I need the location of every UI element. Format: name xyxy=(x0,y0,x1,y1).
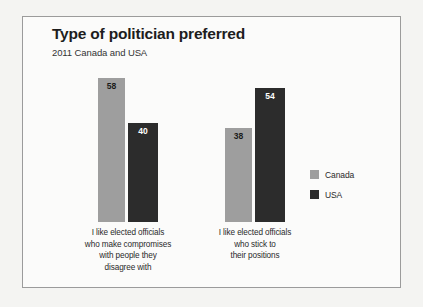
chart-legend: Canada USA xyxy=(310,167,354,207)
category-label-line: who make compromises xyxy=(68,239,188,251)
legend-label-canada: Canada xyxy=(325,170,354,180)
bar-value-canada-compromises: 58 xyxy=(98,81,125,91)
category-label-line: disagree with xyxy=(68,262,188,274)
category-label-line: their positions xyxy=(195,250,315,262)
legend-item-canada: Canada xyxy=(310,167,354,182)
chart-page: Type of politician preferred 2011 Canada… xyxy=(0,0,423,307)
plot-area: 58 40 38 54 I like elected officials who… xyxy=(0,0,423,307)
bar-usa-compromises xyxy=(128,123,158,222)
bar-canada-compromises xyxy=(98,78,125,222)
category-label-line: who stick to xyxy=(195,239,315,251)
bar-value-usa-compromises: 40 xyxy=(128,126,158,136)
bar-value-usa-stick-positions: 54 xyxy=(255,91,285,101)
legend-item-usa: USA xyxy=(310,187,354,202)
bar-usa-stick-positions xyxy=(255,88,285,222)
bar-value-canada-stick-positions: 38 xyxy=(225,131,252,141)
category-label-line: I like elected officials xyxy=(195,227,315,239)
legend-swatch-usa-icon xyxy=(310,190,319,199)
category-label-compromises: I like elected officials who make compro… xyxy=(68,227,188,273)
category-label-line: I like elected officials xyxy=(68,227,188,239)
bar-canada-stick-positions xyxy=(225,128,252,222)
legend-label-usa: USA xyxy=(325,190,342,200)
legend-swatch-canada-icon xyxy=(310,170,319,179)
category-label-stick-positions: I like elected officials who stick to th… xyxy=(195,227,315,262)
category-label-line: with people they xyxy=(68,250,188,262)
